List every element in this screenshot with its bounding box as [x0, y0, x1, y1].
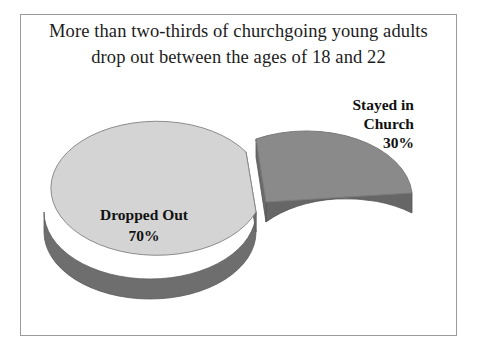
chart-canvas: Stayed in Church 30% Dropped Out 70% — [0, 0, 482, 353]
label-stayed-value: 30% — [352, 133, 414, 152]
label-stayed-line-2: Church — [352, 114, 414, 133]
label-dropped-out: Dropped Out 70% — [84, 204, 204, 246]
label-stayed-line-1: Stayed in — [352, 95, 414, 114]
pie-chart-figure: More than two-thirds of churchgoing youn… — [0, 0, 482, 353]
label-dropped-line-1: Dropped Out — [84, 204, 204, 225]
pie-chart-svg — [0, 0, 482, 353]
label-dropped-value: 70% — [84, 225, 204, 246]
label-stayed-in-church: Stayed in Church 30% — [352, 95, 414, 152]
